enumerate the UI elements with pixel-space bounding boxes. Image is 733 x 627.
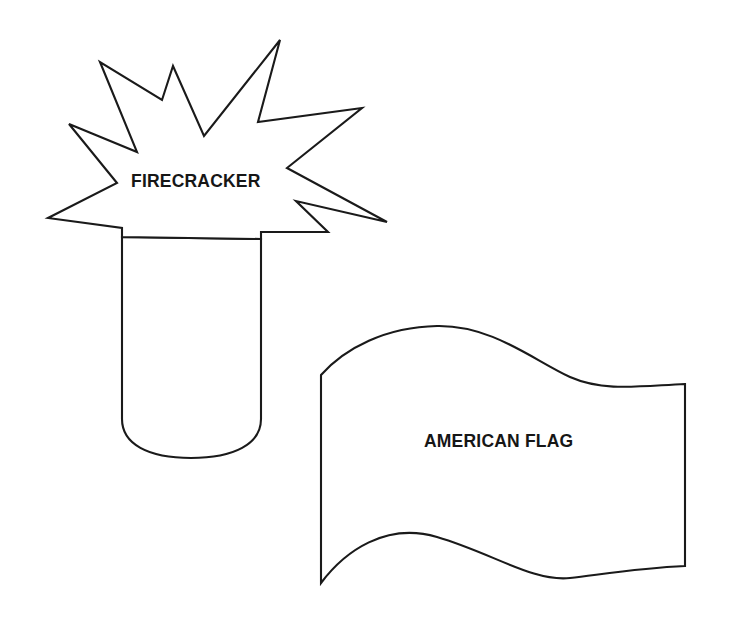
firecracker-burst-shape [48,40,387,239]
firecracker-label: FIRECRACKER [131,171,261,192]
american-flag-shape [321,326,685,583]
firecracker-tube-shape [122,237,261,458]
template-page: FIRECRACKER AMERICAN FLAG [0,0,733,627]
shape-artwork-layer [0,0,733,627]
american-flag-label: AMERICAN FLAG [424,431,573,452]
